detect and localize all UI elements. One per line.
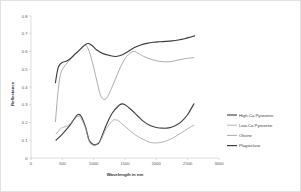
x-tick-label: 1500 [120,161,130,166]
series-line-low-ca-pyroxene [56,116,194,145]
y-axis-title: Reflectance [10,81,15,106]
y-axis-ticks: 00.10.20.30.40.50.60.70.8 [22,14,31,161]
legend-label-olivine: Olivine [239,133,252,138]
reflectance-spectra-chart: 00.10.20.30.40.50.60.70.8 05001000150020… [1,1,301,192]
series-line-olivine [55,45,193,121]
legend-label-low-ca-pyroxene: Low-Ca Pyroxene [239,123,273,128]
y-tick-label: 0.8 [22,14,28,19]
x-tick-label: 3000 [214,161,224,166]
x-tick-label: 2500 [183,161,193,166]
y-tick-label: 0.3 [22,102,28,107]
y-tick-label: 0.7 [22,31,28,36]
chart-figure: 00.10.20.30.40.50.60.70.8 05001000150020… [0,0,301,192]
y-tick-label: 0.1 [22,138,28,143]
plot-area: 00.10.20.30.40.50.60.70.8 05001000150020… [1,1,301,192]
y-tick-label: 0 [25,156,28,161]
y-tick-label: 0.4 [22,85,28,90]
chart-legend: High-Ca PyroxeneLow-Ca PyroxeneOlivinePl… [227,113,274,149]
y-tick-label: 0.6 [22,49,28,54]
x-tick-label: 0 [30,161,33,166]
x-axis-ticks: 050010001500200025003000 [30,158,224,166]
series-lines [55,36,194,146]
series-line-high-ca-pyroxene [56,104,194,145]
x-axis-title: Wavelength in nm [107,172,144,177]
y-tick-label: 0.5 [22,67,28,72]
x-tick-label: 1000 [89,161,99,166]
legend-label-high-ca-pyroxene: High-Ca Pyroxene [239,113,274,118]
x-tick-label: 500 [59,161,67,166]
y-tick-label: 0.2 [22,120,28,125]
legend-label-plagioclase: Plagioclase [239,143,261,148]
x-tick-label: 2000 [152,161,162,166]
